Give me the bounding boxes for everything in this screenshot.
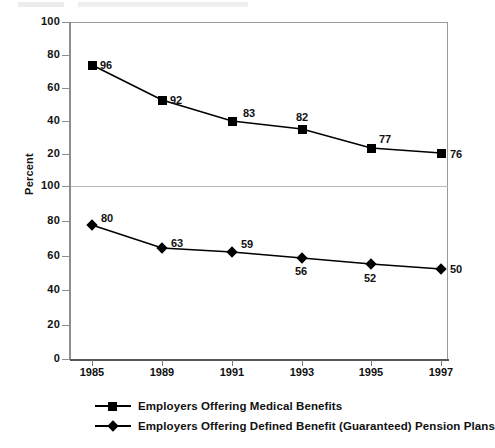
x-tick-label-1993: 1993 (272, 366, 332, 378)
data-point-medical-1995 (367, 144, 376, 153)
data-point-medical-1989 (158, 96, 167, 105)
legend-item-pension-plans: Employers Offering Defined Benefit (Guar… (95, 416, 455, 436)
data-point-medical-1985 (88, 61, 97, 70)
y-tick-label-lower-100: 100 (14, 179, 60, 191)
y-tick-lower-80 (62, 221, 70, 222)
y-tick-upper-40 (62, 121, 70, 122)
y-tick-label-upper-80: 80 (14, 48, 60, 60)
y-tick-lower-0 (62, 359, 70, 360)
y-tick-lower-20 (62, 325, 70, 326)
x-tick-label-1989: 1989 (132, 366, 192, 378)
data-label-pension-1985: 80 (101, 212, 113, 224)
y-tick-label-upper-100: 100 (14, 15, 60, 27)
legend-label-pension-plans: Employers Offering Defined Benefit (Guar… (138, 420, 495, 432)
x-tick-label-1985: 1985 (62, 366, 122, 378)
data-label-medical-1991: 83 (243, 107, 255, 119)
y-tick-upper-100 (62, 22, 70, 23)
data-label-pension-1995: 52 (364, 272, 376, 284)
y-tick-label-lower-80: 80 (14, 214, 60, 226)
y-tick-label-lower-60: 60 (14, 249, 60, 261)
x-axis-line (70, 359, 449, 361)
square-marker-icon (95, 400, 131, 412)
y-tick-label-upper-40: 40 (14, 114, 60, 126)
plot-frame (70, 22, 448, 360)
panel-divider-line (70, 186, 448, 187)
x-tick-label-1991: 1991 (202, 366, 262, 378)
y-tick-lower-60 (62, 256, 70, 257)
y-tick-label-upper-20: 20 (14, 147, 60, 159)
x-tick-label-1995: 1995 (341, 366, 401, 378)
data-label-medical-1993: 82 (296, 111, 308, 123)
data-label-medical-1995: 77 (379, 133, 391, 145)
data-point-medical-1991 (228, 117, 237, 126)
y-tick-lower-40 (62, 290, 70, 291)
y-tick-upper-80 (62, 55, 70, 56)
y-tick-label-lower-0: 0 (14, 352, 60, 364)
y-tick-label-lower-20: 20 (14, 318, 60, 330)
data-label-pension-1991: 59 (241, 238, 253, 250)
y-tick-label-lower-40: 40 (14, 283, 60, 295)
y-tick-lower-100 (62, 186, 70, 187)
y-tick-label-upper-60: 60 (14, 81, 60, 93)
legend-item-medical-benefits: Employers Offering Medical Benefits (95, 396, 455, 416)
data-point-medical-1997 (437, 149, 446, 158)
data-label-medical-1989: 92 (170, 94, 182, 106)
legend-label-medical-benefits: Employers Offering Medical Benefits (138, 400, 342, 412)
y-tick-upper-20 (62, 154, 70, 155)
y-axis-line (69, 22, 71, 360)
scan-artifact (18, 2, 248, 7)
data-point-medical-1993 (298, 125, 307, 134)
chart-legend: Employers Offering Medical Benefits Empl… (95, 396, 455, 436)
x-tick-label-1997: 1997 (411, 366, 471, 378)
diamond-marker-icon (95, 420, 131, 432)
data-label-pension-1989: 63 (171, 237, 183, 249)
y-tick-upper-60 (62, 88, 70, 89)
data-label-medical-1985: 96 (100, 59, 112, 71)
data-label-pension-1997: 50 (450, 263, 462, 275)
data-label-medical-1997: 76 (450, 148, 462, 160)
data-label-pension-1993: 56 (295, 265, 307, 277)
